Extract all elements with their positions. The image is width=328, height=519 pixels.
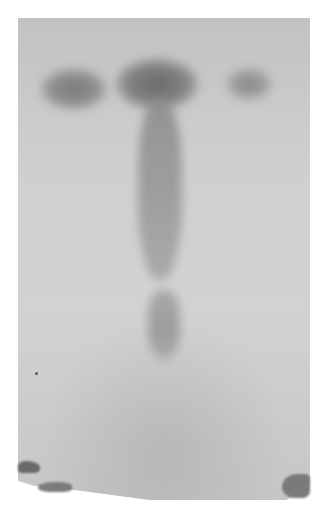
torn-corner-left-bottom xyxy=(38,482,72,492)
left-spot xyxy=(40,68,108,110)
paper-mark xyxy=(35,372,38,375)
center-streak-upper xyxy=(138,100,182,280)
torn-corner-left xyxy=(18,461,40,473)
right-spot xyxy=(226,68,272,100)
torn-corner-right xyxy=(282,474,310,498)
center-streak-lower xyxy=(148,290,180,360)
